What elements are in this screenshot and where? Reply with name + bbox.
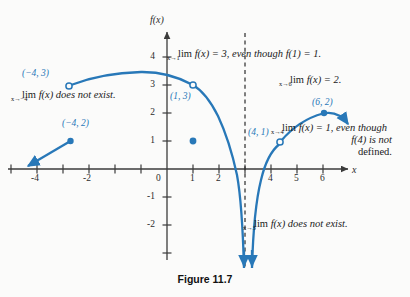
annotation-limit-3: limx→3 f(x) does not exist.	[254, 218, 348, 230]
x-tick-5: 5	[294, 173, 299, 184]
x-tick-6: 6	[320, 173, 325, 184]
point-filled-6-2	[321, 110, 327, 116]
x-tick-4: 4	[268, 173, 273, 184]
annotation-limit-3-lim: lim	[254, 218, 268, 229]
point-open-1-3	[190, 82, 196, 88]
x-axis-label: x	[352, 164, 356, 175]
x-tick-neg4: -4	[31, 173, 39, 184]
y-tick-4: 4	[141, 51, 155, 62]
x-tick-1: 1	[190, 173, 195, 184]
annotation-limit-neg4-text: f(x) does not exist.	[39, 89, 116, 100]
point-label-6-2: (6, 2)	[312, 97, 333, 108]
y-axis-label: f(x)	[150, 14, 164, 25]
point-label-4-1: (4, 1)	[248, 127, 269, 138]
curve-main-right	[252, 145, 279, 269]
point-filled-1-1	[190, 138, 197, 145]
annotation-limit-neg4: limx→−4 f(x) does not exist.	[22, 89, 116, 101]
annotation-limit-1: limx→1 f(x) = 3, even though f(1) = 1.	[178, 48, 321, 60]
y-tick-2: 2	[141, 107, 155, 118]
point-label-1-3: (1, 3)	[170, 91, 191, 102]
x-tick-neg2: -2	[83, 173, 91, 184]
y-tick-1: 1	[141, 135, 155, 146]
annotation-limit-6-lim: lim	[290, 74, 304, 85]
annotation-limit-1-text: f(x) = 3, even though f(1) = 1.	[195, 48, 321, 59]
curve-main-left	[71, 72, 244, 268]
y-tick-neg1: -1	[138, 191, 155, 202]
x-tick-2: 2	[216, 173, 221, 184]
annotation-limit-6: limx→6 f(x) = 2.	[290, 74, 341, 86]
point-filled-neg4-2	[67, 138, 73, 144]
figure-container: f(x) x -4 -2 0 1 2 4 5 6 4 3 2 1 -1 -2 (…	[0, 0, 410, 297]
point-label-neg4-3: (−4, 3)	[22, 68, 49, 79]
y-axis	[163, 32, 172, 260]
x-tick-0: 0	[156, 173, 161, 184]
y-tick-neg2: -2	[138, 219, 155, 230]
annotation-limit-4-lim: lim	[282, 122, 296, 133]
annotation-limit-4-line2: f(4) is not	[282, 134, 406, 146]
annotation-limit-4-line3: defined.	[282, 146, 406, 158]
y-tick-3: 3	[141, 79, 155, 90]
annotation-limit-6-text: f(x) = 2.	[307, 74, 342, 85]
annotation-limit-3-text: f(x) does not exist.	[271, 218, 348, 229]
annotation-limit-4-text: f(x) = 1, even though	[299, 122, 387, 133]
point-label-neg4-2: (−4, 2)	[62, 118, 89, 129]
figure-caption: Figure 11.7	[0, 273, 410, 285]
annotation-limit-4: limx→4 f(x) = 1, even though f(4) is not…	[282, 122, 406, 157]
annotation-limit-1-lim: lim	[178, 48, 192, 59]
curve-left-ray	[28, 141, 71, 166]
